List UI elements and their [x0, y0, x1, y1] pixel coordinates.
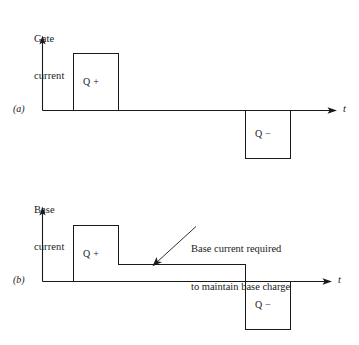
panel-a-graphics: [39, 36, 337, 159]
panel-b-tag: (b): [13, 274, 25, 286]
panel-a-x-axis-label: t: [343, 103, 346, 115]
base-current-annotation-line1: Base current required: [191, 243, 290, 256]
panel-a-positive-pulse-label: Q +: [83, 76, 99, 88]
panel-a-negative-pulse-label: Q −: [255, 128, 271, 140]
panel-b-y-axis-label-line2: current: [34, 241, 64, 253]
panel-b-x-axis-label: t: [338, 274, 341, 286]
base-current-annotation: Base current required to maintain base c…: [191, 217, 290, 319]
figure-container: Gate current (a) t Q + Q − Base current …: [0, 0, 359, 345]
panel-a-y-axis-label-line1: Gate: [34, 33, 64, 45]
base-current-annotation-line2: to maintain base charge: [191, 281, 290, 294]
panel-a-y-axis-label-line2: current: [34, 70, 64, 82]
panel-b-positive-pulse-label: Q +: [83, 248, 99, 260]
panel-b-y-axis-label-line1: Base: [34, 204, 64, 216]
panel-a-y-axis-label: Gate current: [34, 8, 64, 107]
panel-a-tag: (a): [13, 103, 25, 115]
panel-b-y-axis-label: Base current: [34, 179, 64, 278]
